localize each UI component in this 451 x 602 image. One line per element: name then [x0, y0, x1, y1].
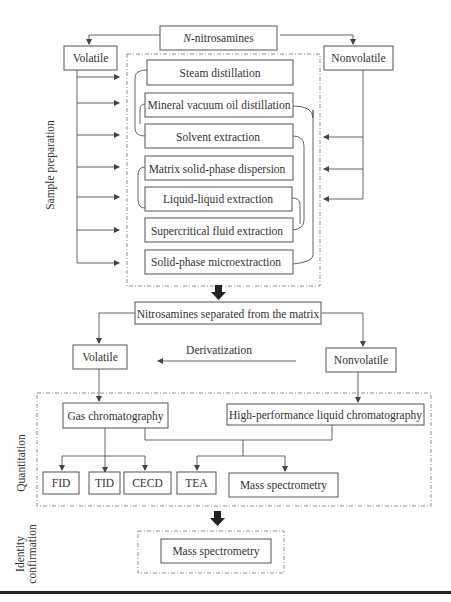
- quantitation-label: Quantitation: [15, 434, 27, 492]
- volatile-feeder-arrows: [77, 77, 119, 263]
- svg-text:Mass spectrometry: Mass spectrometry: [240, 479, 327, 492]
- svg-text:TEA: TEA: [185, 477, 208, 489]
- svg-text:N-nitrosamines: N-nitrosamines: [182, 32, 254, 44]
- hplc-node: High-performance liquid chromatography: [227, 404, 424, 425]
- svg-text:TID: TID: [95, 477, 114, 489]
- method-supercritical-fluid-extraction: Supercritical fluid extraction: [145, 218, 293, 242]
- nitrosamine-analysis-flowchart: N-nitrosamines Volatile Nonvolatile Samp…: [0, 0, 451, 602]
- top-nonvolatile-node: Nonvolatile: [324, 46, 393, 70]
- mid-nonvolatile-label: Nonvolatile: [334, 354, 388, 366]
- quantitation-connectors: [62, 425, 332, 472]
- method-matrix-solid-phase-dispersion: Matrix solid-phase dispersion: [145, 156, 293, 180]
- svg-text:Supercritical fluid extraction: Supercritical fluid extraction: [151, 225, 283, 238]
- svg-text:confirmation: confirmation: [26, 524, 38, 584]
- identity-confirmation-label: Identity confirmation: [14, 524, 38, 584]
- method-solid-phase-microextraction: Solid-phase microextraction: [145, 250, 293, 274]
- separated-label: Nitrosamines separated from the matrix: [137, 308, 320, 321]
- svg-text:Solvent extraction: Solvent extraction: [176, 131, 260, 143]
- svg-text:CECD: CECD: [132, 477, 163, 489]
- gc-node: Gas chromatography: [63, 403, 168, 428]
- svg-text:Mineral vacuum oil distillatio: Mineral vacuum oil distillation: [148, 99, 291, 111]
- svg-text:Solid-phase microextraction: Solid-phase microextraction: [151, 256, 281, 269]
- method-steam-distillation: Steam distillation: [147, 60, 293, 85]
- top-nonvolatile-label: Nonvolatile: [331, 52, 385, 64]
- identity-mass-spectrometry: Mass spectrometry: [161, 539, 271, 563]
- identity-method-label: Mass spectrometry: [172, 545, 259, 558]
- block-arrow-down-2: [210, 511, 225, 526]
- top-volatile-node: Volatile: [64, 46, 117, 70]
- root-node: N-nitrosamines: [160, 26, 277, 50]
- method-mineral-vacuum-oil-distillation: Mineral vacuum oil distillation: [145, 93, 293, 117]
- arrow-separated-to-volatile: [99, 313, 135, 343]
- svg-text:Steam distillation: Steam distillation: [180, 67, 261, 79]
- separated-node: Nitrosamines separated from the matrix: [135, 302, 321, 324]
- top-volatile-label: Volatile: [73, 52, 109, 64]
- block-arrow-down-1: [211, 285, 226, 300]
- detector-tid: TID: [89, 472, 120, 494]
- hplc-label: High-performance liquid chromatography: [229, 409, 422, 422]
- method-liquid-liquid-extraction: Liquid-liquid extraction: [145, 187, 292, 211]
- root-suffix: -nitrosamines: [191, 32, 254, 44]
- derivatization-label: Derivatization: [186, 344, 252, 356]
- detector-fid: FID: [43, 472, 79, 494]
- arrow-root-to-volatile: [89, 35, 160, 44]
- detector-cecd: CECD: [124, 472, 171, 494]
- arrow-separated-to-nonvolatile: [321, 313, 363, 346]
- mid-nonvolatile-node: Nonvolatile: [326, 348, 396, 372]
- method-solvent-extraction: Solvent extraction: [145, 124, 293, 148]
- svg-text:Liquid-liquid extraction: Liquid-liquid extraction: [163, 193, 273, 206]
- arrow-root-to-nonvolatile: [280, 35, 353, 44]
- svg-text:FID: FID: [52, 477, 71, 489]
- bottom-rule: [0, 591, 451, 594]
- sample-preparation-label: Sample preparation: [44, 120, 57, 210]
- detector-tea: TEA: [177, 472, 216, 494]
- nonvolatile-feeder-arrows: [324, 137, 363, 199]
- detector-mass-spectrometry: Mass spectrometry: [229, 473, 338, 497]
- mid-volatile-label: Volatile: [82, 351, 118, 363]
- svg-text:Matrix solid-phase dispersion: Matrix solid-phase dispersion: [149, 163, 286, 176]
- gc-label: Gas chromatography: [67, 410, 163, 423]
- mid-volatile-node: Volatile: [73, 345, 127, 369]
